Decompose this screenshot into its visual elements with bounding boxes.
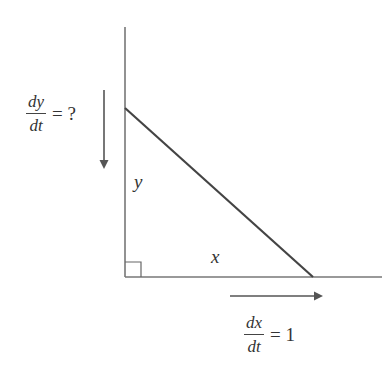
rate-y-denominator: dt: [29, 114, 42, 134]
right-angle-marker: [125, 262, 141, 277]
right-arrow-icon: [230, 292, 323, 301]
diagram-canvas: [0, 0, 391, 369]
rate-x-denominator: dt: [247, 335, 260, 355]
rate-x-numerator: dx: [244, 314, 264, 335]
rate-x-value: = 1: [270, 324, 295, 346]
label-x: x: [211, 247, 219, 266]
rate-y-value: = ?: [52, 103, 76, 125]
rate-x-equation: dx dt = 1: [244, 314, 295, 355]
label-y: y: [134, 172, 142, 191]
down-arrow-icon: [100, 90, 109, 169]
rate-y-numerator: dy: [26, 93, 46, 114]
rate-y-equation: dy dt = ?: [26, 93, 76, 134]
